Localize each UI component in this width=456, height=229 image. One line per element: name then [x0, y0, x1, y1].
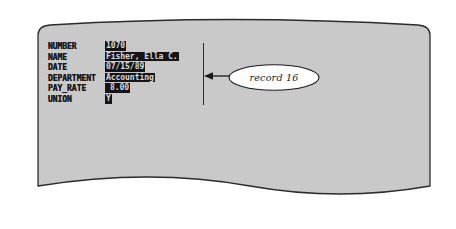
- field-value-date[interactable]: 07/15/89: [105, 62, 145, 72]
- field-value-department[interactable]: Accounting: [105, 73, 155, 83]
- callout-arrow-icon: [204, 71, 230, 81]
- field-row-union: UNION Y: [48, 94, 198, 105]
- callout-bubble: record 16: [228, 64, 320, 91]
- field-label-number: NUMBER: [48, 41, 105, 52]
- record-field-list: NUMBER 1070 NAME Fisher, Ella C. DATE 07…: [48, 41, 198, 105]
- field-row-pay-rate: PAY_RATE 8.00: [48, 83, 198, 94]
- field-label-union: UNION: [48, 94, 105, 105]
- field-label-department: DEPARTMENT: [48, 73, 105, 84]
- field-label-name: NAME: [48, 52, 105, 63]
- field-row-number: NUMBER 1070: [48, 41, 198, 52]
- screenshot-root: NUMBER 1070 NAME Fisher, Ella C. DATE 07…: [0, 0, 456, 229]
- callout-label: record 16: [228, 64, 320, 91]
- field-value-pay-rate[interactable]: 8.00: [105, 83, 130, 93]
- field-value-name[interactable]: Fisher, Ella C.: [105, 52, 179, 62]
- field-value-number[interactable]: 1070: [105, 41, 126, 51]
- screen-page-shape: [0, 0, 456, 229]
- field-label-date: DATE: [48, 62, 105, 73]
- field-value-union[interactable]: Y: [105, 94, 112, 104]
- field-label-pay-rate: PAY_RATE: [48, 83, 105, 94]
